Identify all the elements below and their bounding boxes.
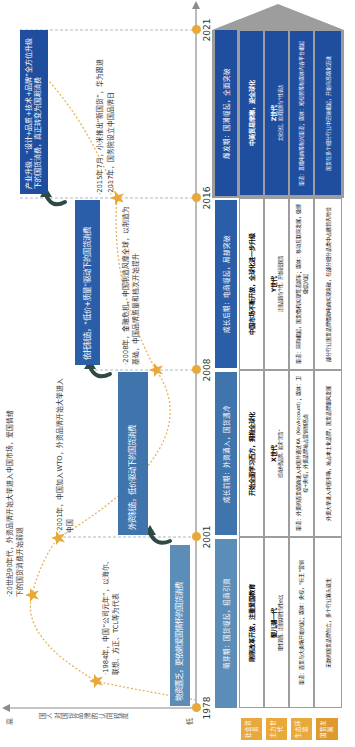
year-label: 2021 [202,19,212,42]
cell-development: 国货在多个细分行业中迅速崛起，开始向高端化迈进 [314,30,342,196]
stage-header-4: 爆发期：国潮崛起，全面突破 [215,30,237,196]
cell-ecosystem: 渠道：直播电商等新兴渠道；媒体：短视频等新媒体内容平台崛起 [289,30,314,196]
year-label: 2008 [202,359,212,382]
year-label: 2001 [202,526,212,549]
row-label-generation: 主力世代 [266,718,287,740]
infographic-canvas: 1978 2001 2008 2016 2021 高 低 国人对国货品牌的认同程… [0,0,355,747]
cell-development: 外资大举进入中国市场，抢占本土化品牌，国货品牌跟风发展 [314,370,342,537]
stage-box-1: 物资匮乏，更依赖爱国情怀的国货消费 [170,545,190,706]
cell-social: 开始全面学习西方，拥抱全球化 [239,370,264,537]
stage-header-1: 萌芽期：国货崛起，招商引资 [215,539,237,708]
stage-header-3: 成长后期：电商崛起，局部突破 [215,200,237,368]
cell-generation: 婴儿潮一代理性消费，注重实用性与性价比 [264,537,289,708]
year-label: 2016 [202,187,212,210]
event-2015: ·2015年7月，小米推出“新国货”，华为跟进 [96,35,106,195]
y-axis-low: 低 [184,718,194,725]
cell-generation: Y世代注重品质与个性，开始接受国货 [264,198,289,370]
event-1984: ·1984年，中国“公司元年”，以海尔、联想、方正、TCL等为代表 [102,555,122,675]
cell-social: 中国市场不断开放，全球化进一步升级 [239,198,264,370]
cell-ecosystem: 渠道：网购崛起，国货借机实现弯道超车；媒体：移动互联网发展，微博微信兴起 [289,198,314,370]
cell-development: 无数的国货品牌创立，多个行业寡头诞生 [314,537,342,708]
row-label-social: 社会背景 [241,718,262,740]
year-label: 1978 [202,697,212,720]
cell-generation: X世代崇尚外资品牌，追求“洋货” [264,370,289,537]
row-label-development: 国货发展 [316,718,338,740]
y-axis-high: 高 [4,718,14,725]
event-2017: ·2017年，国务院设立中国品牌日 [107,35,117,195]
cell-social: 中美贸易摩擦，逆全球化 [239,30,264,196]
event-2008: ·2008年，金融危机，中国制造风靡全球，以制造为基础，中国品牌质量和档次开始提… [122,205,142,365]
cell-social: 刚刚改革开放，注重爱国教育 [239,537,264,708]
cell-ecosystem: 渠道：百货与大卖场开始兴起；媒体：央视，“标王”营销 [289,537,314,708]
stage-box-4: 产业升级，“设计+品质+技术+品牌”全方位升级下的国货消费，真正转变为国潮消费 [20,30,48,194]
y-axis-label: 国人对国货品牌的认同程度 [40,711,130,719]
cell-ecosystem: 渠道：外资的百货/超商进入中国并通过KA（KeyAccount）；媒体：卫视+央… [289,370,314,537]
stage-header-2: 成长前期：外资涌入，国货遇冷 [215,372,237,535]
stage-box-2: 外资制造，低价驱动下的国货消费 [118,372,148,535]
event-1990s: ·20世纪90年代，外资品牌开始大举进入中国市场，爱国情绪下的国货消费开始弱退 [6,407,26,597]
event-2001: ·2001年，中国加入WTO，外资品牌开始大举进入中国 [56,373,76,533]
stage-box-3: 依托制造，“低价+质量”驱动下的国货消费 [75,200,100,365]
cell-development: 部分行业国货品牌借助电商实现突破，在部分细分品类中占据领先地位 [314,198,342,370]
cell-generation: Z世代文化自信，追求国潮与个性表达 [264,30,289,196]
row-label-ecosystem: 生态环境 [291,718,312,740]
